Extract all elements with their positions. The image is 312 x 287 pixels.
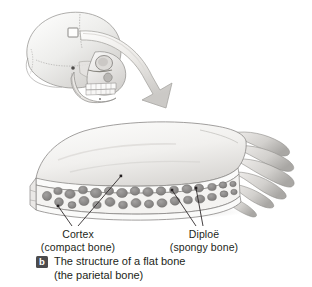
label-cortex-term: Cortex [22, 228, 134, 241]
label-cortex-sub: (compact bone) [22, 241, 134, 254]
dot-cortex-lower [57, 205, 60, 208]
parietal-sample-marker [68, 28, 78, 37]
caption-line-2: (the parietal bone) [54, 269, 185, 283]
label-diploe: Diploë (spongy bone) [152, 228, 256, 253]
label-cortex: Cortex (compact bone) [22, 228, 134, 253]
dot-diploe-right [195, 187, 198, 190]
left-cut-edge [30, 178, 36, 210]
figure-caption: b The structure of a flat bone (the pari… [36, 255, 286, 282]
label-diploe-term: Diploë [152, 228, 256, 241]
flat-bone-block [30, 122, 294, 220]
nasal-aperture [104, 73, 112, 82]
dot-cortex-upper [120, 175, 123, 178]
skull-illustration [26, 12, 126, 102]
label-diploe-sub: (spongy bone) [152, 241, 256, 254]
mental-foramen [99, 98, 101, 100]
outer-cortex-surface [36, 122, 246, 186]
caption-text: The structure of a flat bone (the pariet… [54, 255, 185, 282]
figure-root: Cortex (compact bone) Diploë (spongy bon… [0, 0, 312, 287]
caption-badge: b [36, 256, 48, 268]
orbit-depth [98, 58, 108, 66]
caption-line-1: The structure of a flat bone [54, 255, 185, 269]
lower-teeth [86, 89, 115, 95]
dot-diploe-left [171, 189, 174, 192]
auditory-meatus [71, 66, 75, 70]
